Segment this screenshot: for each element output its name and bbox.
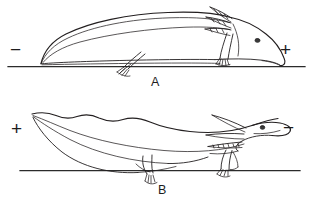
panel-a-forelimb [216,33,233,66]
panel-b-negative-electrode-sign: − [283,118,294,137]
panel-b-trunk-lower [168,157,208,164]
panel-a-inner-body-line [43,27,231,63]
panel-a-hindlimb [117,52,145,76]
panel-b-drawing [0,100,312,212]
panel-b-positive-electrode-sign: + [11,119,22,138]
figure-root: − + A [0,0,312,212]
panel-b-label: B [158,184,166,197]
panel-b-head-jaw [236,135,272,151]
panel-b-upper-body-line [33,116,244,152]
panel-a-negative-electrode-sign: − [10,40,21,59]
panel-b-mouth-line [254,131,280,134]
panel-a-external-gills [205,7,232,36]
panel-b-hindlimb [136,155,157,184]
panel-a: − + A [0,0,312,100]
panel-a-label: A [151,76,159,89]
panel-b: + − B [0,100,312,212]
panel-a-gill-cover [233,24,239,56]
panel-b-dorsal-crest [32,113,278,133]
panel-a-positive-electrode-sign: + [280,40,291,59]
